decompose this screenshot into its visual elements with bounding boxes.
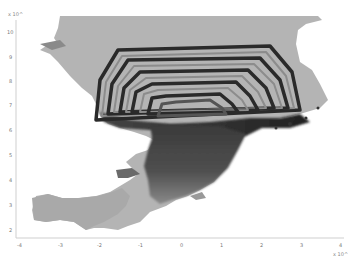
- y-tick: 4: [9, 177, 12, 183]
- x-tick: 3: [300, 242, 303, 248]
- x-tick: -3: [58, 242, 63, 248]
- y-tick: 8: [9, 78, 12, 84]
- y-tick: 2: [9, 227, 12, 233]
- x-tick: 0: [180, 242, 183, 248]
- y-tick: 9: [9, 54, 12, 60]
- map-figure: x 10^ 10 9 8 7 6 5 4 3 2 -4 -3 -2 -1 0 1…: [0, 0, 360, 262]
- y-tick: 10: [7, 29, 13, 35]
- y-tick: 6: [9, 127, 12, 133]
- x-tick: 1: [220, 242, 223, 248]
- x-tick: 4: [339, 242, 342, 248]
- channel: [144, 124, 246, 204]
- x-tick: 2: [260, 242, 263, 248]
- x-multiplier: x 10^: [333, 251, 348, 257]
- y-multiplier: x 10^: [8, 11, 23, 17]
- x-tick: -2: [97, 242, 102, 248]
- y-tick: 7: [9, 102, 12, 108]
- y-tick: 3: [9, 202, 12, 208]
- x-tick: -4: [17, 242, 22, 248]
- map-plot: [0, 0, 360, 262]
- y-tick: 5: [9, 152, 12, 158]
- x-tick: -1: [138, 242, 143, 248]
